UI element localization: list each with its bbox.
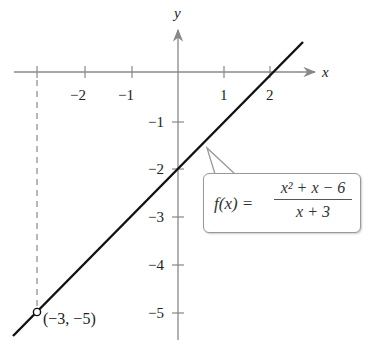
x-axis-label: x: [322, 65, 329, 80]
fraction-denominator: x + 3: [274, 200, 352, 221]
callout-tail: [207, 148, 235, 174]
function-fraction: x² + x − 6 x + 3: [274, 179, 352, 221]
x-tick-label: −1: [118, 88, 134, 103]
y-axis-label: y: [174, 6, 181, 21]
y-tick-label: −1: [148, 115, 164, 130]
x-tick-label: 1: [220, 88, 228, 103]
fraction-numerator: x² + x − 6: [274, 179, 352, 200]
hole-marker: [33, 308, 40, 315]
function-callout: f(x) = x² + x − 6 x + 3: [203, 173, 361, 233]
y-tick-label: −4: [148, 258, 164, 273]
x-tick-label: 2: [266, 88, 274, 103]
x-tick-label: −2: [70, 88, 86, 103]
hole-label: (−3, −5): [43, 311, 96, 327]
function-lhs: f(x) =: [214, 194, 253, 214]
y-tick-label: −2: [148, 162, 164, 177]
y-tick-label: −5: [148, 306, 164, 321]
y-tick-label: −3: [148, 210, 164, 225]
